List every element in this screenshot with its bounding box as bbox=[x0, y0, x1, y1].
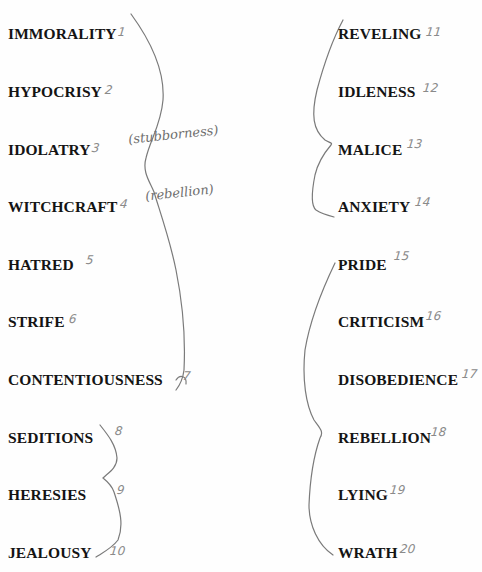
word-reveling: REVELING bbox=[338, 26, 421, 42]
number-19: 19 bbox=[389, 484, 406, 496]
note-rebellion: (rebellion) bbox=[145, 182, 215, 202]
word-hypocrisy: HYPOCRISY bbox=[8, 84, 102, 100]
number-14: 14 bbox=[414, 196, 431, 208]
word-seditions: SEDITIONS bbox=[8, 430, 93, 446]
number-3: 3 bbox=[91, 142, 100, 154]
number-15: 15 bbox=[393, 250, 410, 262]
word-malice: MALICE bbox=[338, 142, 402, 158]
number-17: 17 bbox=[461, 368, 478, 380]
word-idleness: IDLENESS bbox=[338, 84, 415, 100]
number-12: 12 bbox=[422, 82, 439, 94]
number-20: 20 bbox=[399, 543, 416, 555]
number-10: 10 bbox=[109, 545, 126, 557]
word-lying: LYING bbox=[338, 487, 388, 503]
number-1: 1 bbox=[117, 26, 126, 38]
word-disobedience: DISOBEDIENCE bbox=[338, 372, 458, 388]
number-6: 6 bbox=[68, 313, 77, 325]
number-13: 13 bbox=[406, 138, 423, 150]
word-strife: STRIFE bbox=[8, 314, 65, 330]
word-pride: PRIDE bbox=[338, 257, 387, 273]
word-jealousy: JEALOUSY bbox=[8, 545, 91, 561]
number-16: 16 bbox=[425, 310, 442, 322]
document-page: IMMORALITY 1 HYPOCRISY 2 IDOLATRY 3 (stu… bbox=[0, 0, 482, 572]
number-9: 9 bbox=[116, 484, 125, 496]
word-witchcraft: WITCHCRAFT bbox=[8, 199, 118, 215]
number-8: 8 bbox=[114, 425, 123, 437]
number-4: 4 bbox=[119, 198, 128, 210]
word-contentiousness: CONTENTIOUSNESS bbox=[8, 372, 163, 388]
word-wrath: WRATH bbox=[338, 545, 398, 561]
brace-right-upper bbox=[312, 20, 343, 217]
brace-right-lower bbox=[304, 263, 335, 555]
word-immorality: IMMORALITY bbox=[8, 26, 117, 42]
word-idolatry: IDOLATRY bbox=[8, 142, 91, 158]
word-anxiety: ANXIETY bbox=[338, 199, 410, 215]
word-heresies: HERESIES bbox=[8, 487, 86, 503]
word-criticism: CRITICISM bbox=[338, 314, 424, 330]
note-stubborness: (stubborness) bbox=[128, 123, 219, 145]
number-5: 5 bbox=[85, 254, 94, 266]
word-rebellion: REBELLION bbox=[338, 430, 431, 446]
number-11: 11 bbox=[425, 26, 442, 38]
word-hatred: HATRED bbox=[8, 257, 74, 273]
number-7: 7 bbox=[182, 370, 191, 382]
number-2: 2 bbox=[104, 84, 113, 96]
number-18: 18 bbox=[430, 426, 447, 438]
